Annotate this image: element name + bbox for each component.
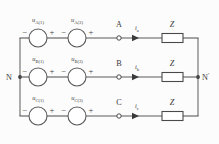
node-label-n-prime: N′: [202, 72, 210, 82]
phase-c-source-2-label: uC(3): [71, 94, 83, 103]
phase-c-source-1-minus: −: [23, 105, 28, 115]
phase-c-source-2-plus: +: [89, 105, 94, 115]
phase-b-source-2-label: uB(3): [71, 55, 83, 64]
phase-c-current-arrow-icon: [132, 113, 139, 119]
phase-a-current-arrow-icon: [132, 35, 139, 41]
phase-b-impedance: [162, 73, 183, 82]
phase-c-source-1: [29, 107, 47, 125]
phase-b-source-1: [29, 68, 47, 86]
phase-c-terminal-label: C: [116, 98, 122, 107]
phase-a-terminal-label: A: [116, 20, 122, 29]
phase-c-current-label: ic: [135, 102, 139, 111]
phase-b-row: uB(1) − + uB(3) − + B ib Z: [20, 55, 198, 86]
phase-b-impedance-label: Z: [170, 59, 175, 68]
phase-c-source-1-label: uC(1): [32, 94, 44, 103]
phase-c-source-2: [68, 107, 86, 125]
phase-b-source-1-plus: +: [50, 66, 55, 76]
phase-b-source-2-minus: −: [62, 66, 67, 76]
phase-c-row: uC(1) − + uC(3) − + C ic Z: [20, 94, 198, 125]
phase-a-source-2-label: uA(3): [71, 16, 83, 25]
node-label-n: N: [6, 73, 12, 82]
phase-a-terminal: [117, 36, 121, 40]
phase-b-source-1-label: uB(1): [32, 55, 44, 64]
phase-a-source-2-plus: +: [89, 27, 94, 37]
phase-c-impedance-label: Z: [170, 98, 175, 107]
phase-a-source-1-minus: −: [23, 27, 28, 37]
phase-b-current-arrow-icon: [132, 74, 139, 80]
phase-b-terminal-label: B: [116, 59, 122, 68]
phase-b-source-1-minus: −: [23, 66, 28, 76]
phase-c-terminal: [117, 114, 121, 118]
phase-c-source-2-minus: −: [62, 105, 67, 115]
phase-a-source-2-minus: −: [62, 27, 67, 37]
phase-a-impedance: [162, 34, 183, 43]
phase-a-row: uA(1) − + uA(3) − + A ia Z: [20, 16, 198, 47]
phase-c-source-1-plus: +: [50, 105, 55, 115]
phase-a-impedance-label: Z: [170, 20, 175, 29]
circuit-canvas: N N′ uA(1) − + uA(3) − + A: [0, 0, 219, 144]
phase-b-current-label: ib: [135, 63, 140, 72]
phase-a-source-2: [68, 29, 86, 47]
phase-a-current-label: ia: [135, 24, 139, 33]
phase-b-source-2-plus: +: [89, 66, 94, 76]
phase-a-source-1-plus: +: [50, 27, 55, 37]
phase-c-impedance: [162, 112, 183, 121]
phase-a-source-1-label: uA(1): [32, 16, 44, 25]
phase-b-terminal: [117, 75, 121, 79]
phase-b-source-2: [68, 68, 86, 86]
phase-a-source-1: [29, 29, 47, 47]
circuit-diagram: N N′ uA(1) − + uA(3) − + A: [0, 0, 219, 144]
